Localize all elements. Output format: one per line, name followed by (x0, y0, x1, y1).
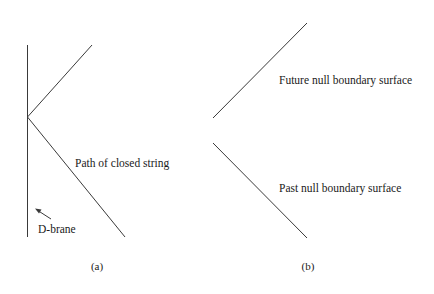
outgoing-string-path (28, 45, 93, 117)
future-null-boundary-line (213, 23, 307, 118)
spacetime-diagram: Path of closed string D-brane (a) Future… (0, 0, 434, 294)
incoming-string-path (28, 117, 126, 237)
label-path-of-closed-string: Path of closed string (75, 157, 169, 170)
label-future-null-boundary: Future null boundary surface (279, 74, 412, 87)
label-d-brane: D-brane (38, 223, 76, 235)
panel-a (28, 45, 126, 237)
d-brane-arrow-icon (35, 209, 51, 220)
caption-a: (a) (91, 260, 104, 273)
label-past-null-boundary: Past null boundary surface (279, 182, 401, 195)
caption-b: (b) (302, 260, 315, 273)
panel-b (213, 23, 307, 238)
